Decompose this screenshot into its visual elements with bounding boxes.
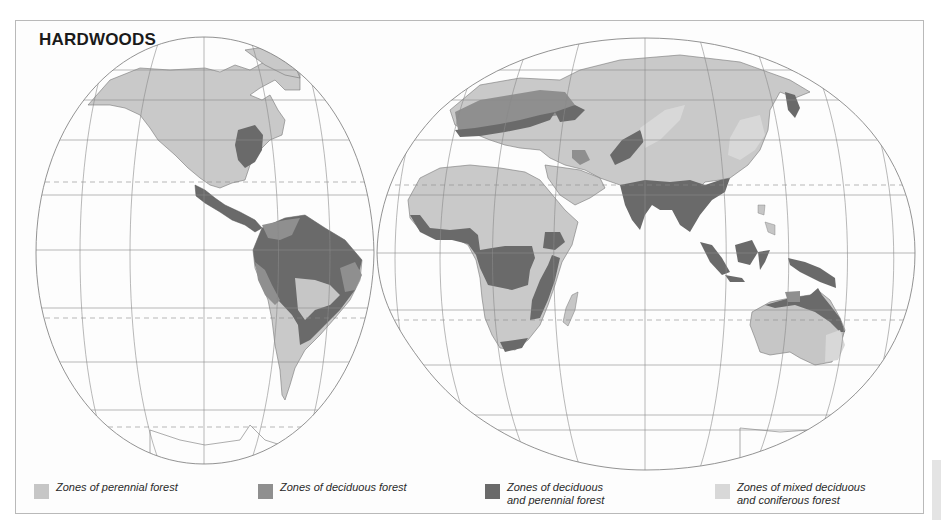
antarctica-east <box>740 428 845 470</box>
legend-swatch-deciduous-perennial <box>485 484 500 499</box>
legend-label-perennial: Zones of perennial forest <box>56 481 178 494</box>
legend-deciduous: Zones of deciduous forest <box>258 481 407 499</box>
legend-mixed: Zones of mixed deciduous and coniferous … <box>715 481 865 507</box>
legend-swatch-deciduous <box>258 484 273 499</box>
legend-label-deciduous: Zones of deciduous forest <box>280 481 407 494</box>
legend-swatch-perennial <box>34 484 49 499</box>
legend-label-deciduous-perennial: Zones of deciduous and perennial forest <box>507 481 604 507</box>
world-map <box>0 0 941 530</box>
legend-perennial: Zones of perennial forest <box>34 481 178 499</box>
legend-deciduous-perennial: Zones of deciduous and perennial forest <box>485 481 604 507</box>
new-zealand-north-dp <box>887 357 898 373</box>
legend-label-mixed: Zones of mixed deciduous and coniferous … <box>737 481 865 507</box>
page-edge-mark <box>932 460 941 520</box>
legend-swatch-mixed <box>715 484 730 499</box>
